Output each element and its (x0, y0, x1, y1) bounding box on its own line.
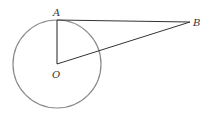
label-o: O (52, 69, 60, 80)
segment-ob (57, 22, 190, 64)
geometry-diagram: A O B (0, 0, 207, 113)
label-b: B (192, 17, 200, 28)
segment-ab (57, 20, 190, 22)
label-a: A (52, 7, 60, 18)
